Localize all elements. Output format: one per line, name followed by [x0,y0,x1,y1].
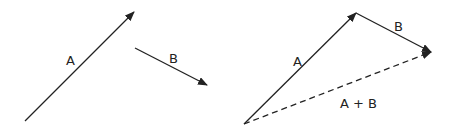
right-vector-a-label: A [293,55,302,68]
right-vector-b-label: B [394,20,403,33]
resultant-label: A + B [340,97,377,110]
left-vector-b-label: B [169,52,178,65]
vector-addition-diagram: A B A B A + B [0,0,455,134]
left-vector-a-arrow [25,12,134,121]
resultant-a-plus-b-arrow [244,52,431,124]
left-vector-a-label: A [66,54,75,67]
